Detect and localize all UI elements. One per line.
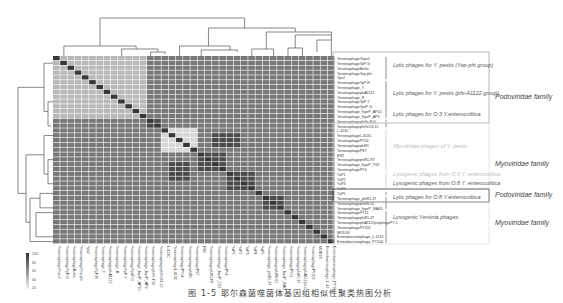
svg-text:YaP3: YaP3 [245,246,249,255]
svg-text:YersiniaphageBerlin: YersiniaphageBerlin [72,246,76,278]
svg-text:YersiniaphagePY54: YersiniaphagePY54 [180,246,184,277]
svg-text:YersiniaphagePST: YersiniaphagePST [337,149,367,153]
svg-text:YersiniaphagePY51: YersiniaphagePY51 [337,211,368,215]
svg-text:YersiniaphageYpP-G: YersiniaphageYpP-G [65,246,69,279]
group-label-7: Lytic phages for O:8 Y.enterocolitica [393,194,481,200]
svg-text:YaP3: YaP3 [337,182,346,186]
svg-text:YersiniaphagePY51: YersiniaphagePY51 [289,246,293,277]
group-label-4: Myoviridae phages of Y. pestis [393,143,467,149]
svg-text:YaP5: YaP5 [337,192,346,196]
svg-text:Yps2: Yps2 [337,76,345,80]
group-label-2: Lytic phages for Y. pestis (phi-A1122 gr… [393,90,499,96]
left-dendrogram [18,63,53,241]
svg-text:80: 80 [32,261,36,265]
svg-text:MOD18: MOD18 [337,231,349,235]
svg-text:YaP2: YaP2 [238,246,242,255]
svg-text:Yersiniaphage_fsyeP_TG1: Yersiniaphage_fsyeP_TG1 [337,163,380,167]
heatmap-svg: YersiniaphageYepe2YersiniaphageYpP-GYers… [0,0,563,303]
family-label-podoviridae-2: Podoviridae family [495,191,552,198]
svg-text:60: 60 [32,269,36,273]
family-label-podoviridae-1: Podoviridae family [495,93,552,100]
svg-text:Yersiniaphage_fsyeP_AP9: Yersiniaphage_fsyeP_AP9 [337,115,379,119]
svg-text:YersiniaphagephiYeO3-12: YersiniaphagephiYeO3-12 [159,246,163,288]
svg-text:Yps2: Yps2 [86,246,90,254]
svg-text:MOD18: MOD18 [318,246,322,258]
svg-text:Yersiniaphage_phiR1-37: Yersiniaphage_phiR1-37 [337,197,376,201]
figure-caption: 图 1-5 耶尔森菌噬菌体基因组相似性聚类热图分析 [140,287,440,298]
svg-text:Enterobacteriophage_PY10: Enterobacteriophage_PY10 [332,246,336,290]
svg-text:YersiniaphagephiR1-RT: YersiniaphagephiR1-RT [209,246,213,285]
svg-text:YersiniaphagephiR1: YersiniaphagephiR1 [188,246,192,278]
svg-text:YersiniaphagephiR1-37: YersiniaphagephiR1-37 [296,246,300,283]
svg-text:40: 40 [32,278,36,282]
group-label-8: Lysogenic Yersinia phages [393,214,458,220]
svg-text:20: 20 [32,286,36,290]
svg-text:YersiniaphagephiR8-01: YersiniaphagephiR8-01 [274,246,278,283]
svg-text:YersiniaphagePY202: YersiniaphagePY202 [311,246,315,279]
svg-text:Yersiniaphage_phiR1-37: Yersiniaphage_phiR1-37 [267,246,271,285]
group-label-3: Lytic phages for O:3 Y.enterocolitica [393,111,481,117]
svg-text:Yersiniaphage_Y: Yersiniaphage_Y [337,86,365,90]
heatmap-cells [53,56,334,243]
svg-text:Yersiniaphage_R: Yersiniaphage_R [337,96,365,100]
svg-text:Yersiniaphage_fsyeP_AP10: Yersiniaphage_fsyeP_AP10 [137,246,141,290]
svg-text:YersiniaphageBerlin: YersiniaphageBerlin [337,67,369,71]
svg-text:Yersiniaphage_fsyeP_SIA05: Yersiniaphage_fsyeP_SIA05 [337,207,382,211]
svg-text:YersiniaphagephiA1122prophageP: YersiniaphagephiA1122prophagePY-1 [337,221,397,225]
svg-text:Yersiniaphage_fsyeP_TG1: Yersiniaphage_fsyeP_TG1 [217,246,221,289]
group-label-1: Lytic phages for Y. pestis (Yep-phi grou… [393,62,493,68]
column-labels: YersiniaphageYepe2YersiniaphageYpP-GYers… [57,246,336,290]
svg-text:YersiniaphageYep-phi: YersiniaphageYep-phi [337,72,372,76]
svg-text:YaP1: YaP1 [337,173,346,177]
svg-text:YersiniaphagephiA1122pro: YersiniaphagephiA1122pro [303,246,307,289]
svg-text:Yersiniaphage_fsyeP_SIA0: Yersiniaphage_fsyeP_SIA0 [282,246,286,289]
heatmap-figure: YersiniaphageYepe2YersiniaphageYpP-GYers… [0,0,563,303]
svg-text:YersiniaphagePY202: YersiniaphagePY202 [337,226,370,230]
svg-text:YersiniaphageYpP-Y: YersiniaphageYpP-Y [123,246,127,279]
svg-text:YersiniaphageL-413C: YersiniaphageL-413C [337,134,372,138]
svg-text:YersiniaphagephiR1-37: YersiniaphagephiR1-37 [337,216,374,220]
svg-text:YersiniaphagePY4: YersiniaphagePY4 [337,168,366,172]
svg-text:YersiniaphagePST: YersiniaphagePST [195,246,199,276]
svg-text:YersiniaphagePY54: YersiniaphagePY54 [337,139,368,143]
svg-text:YersiniaphageYpP-G: YersiniaphageYpP-G [337,62,370,66]
svg-text:YersiniaphageYepe2: YersiniaphageYepe2 [337,57,370,61]
svg-text:Enterobacteriophage_L-41: Enterobacteriophage_L-41 [325,246,329,289]
svg-text:YaP2: YaP2 [337,178,346,182]
svg-text:ER2: ER2 [202,246,206,253]
svg-text:YersiniaphagephiA1122: YersiniaphagephiA1122 [337,91,375,95]
svg-text:Yersiniaphage_fsyeP_AP9: Yersiniaphage_fsyeP_AP9 [144,246,148,288]
svg-text:Enterobacteriophage_L-413C: Enterobacteriophage_L-413C [337,235,385,239]
svg-text:YersiniaphageYpsP-G: YersiniaphageYpsP-G [130,246,134,281]
svg-text:YersiniaphageYpP-R: YersiniaphageYpP-R [94,246,98,279]
svg-text:YaP1: YaP1 [231,246,235,255]
svg-text:YersiniaphageYpP-Y: YersiniaphageYpP-Y [337,100,370,104]
svg-text:L-413C: L-413C [337,129,349,133]
svg-text:ER2: ER2 [337,154,344,158]
svg-text:L-413C: L-413C [166,246,170,258]
svg-text:YersiniaphageYep-phi: YersiniaphageYep-phi [79,246,83,281]
group-label-6: Lysogenic phages from O:8 Y. enterocolit… [393,180,500,186]
row-labels: YersiniaphageYepe2YersiniaphageYpP-GYers… [337,57,397,244]
svg-text:YersiniaphagephiR1-RT: YersiniaphagephiR1-RT [337,158,376,162]
svg-text:YersiniaphagePY4: YersiniaphagePY4 [224,246,228,275]
svg-text:YaP4: YaP4 [253,246,257,255]
svg-text:Yersiniaphage_Y: Yersiniaphage_Y [101,246,105,274]
svg-text:YaP5: YaP5 [260,246,264,255]
svg-text:YersiniaphagephiR1: YersiniaphagephiR1 [337,144,369,148]
svg-text:100: 100 [32,252,38,256]
svg-text:Yersiniaphage_fsyeP_AP10: Yersiniaphage_fsyeP_AP10 [337,110,381,114]
svg-text:YersiniaphageL-413C: YersiniaphageL-413C [173,246,177,281]
family-label-myoviridae-1: Myoviridae family [495,160,549,167]
svg-text:YersiniaphagephiYe-F10: YersiniaphagephiYe-F10 [151,246,155,285]
family-label-myoviridae-2: Myoviridae family [495,219,549,226]
top-dendrogram [64,18,332,56]
svg-text:YersiniaphagephiA1122: YersiniaphagephiA1122 [108,246,112,284]
svg-text:YersiniaphageYpsP-G: YersiniaphageYpsP-G [337,105,372,109]
svg-text:YersiniaphageYpP-R: YersiniaphageYpP-R [337,81,370,85]
svg-text:YersiniaphagephiYeO3-12: YersiniaphagephiYeO3-12 [337,125,379,129]
svg-text:YersiniaphageYepe2: YersiniaphageYepe2 [57,246,61,279]
colorbar: 10080604020 [26,252,38,290]
group-label-5: Lysogenic phages from O:3 Y. enterocolit… [393,171,500,177]
svg-text:Yersiniaphage_R: Yersiniaphage_R [115,246,119,274]
